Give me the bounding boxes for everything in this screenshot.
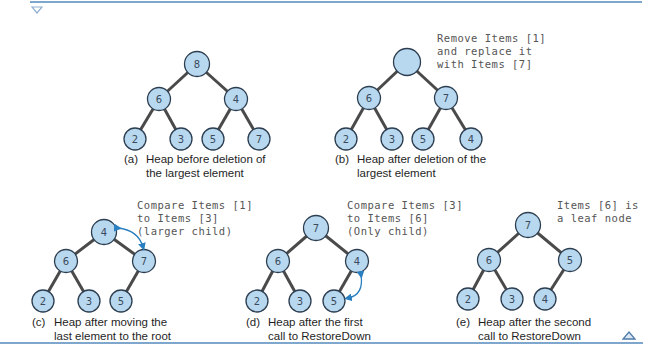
node-d-1: 6 — [275, 256, 281, 267]
node-e-0: 7 — [525, 220, 531, 231]
node-e-1: 6 — [486, 255, 492, 266]
note-e: Items [6] isa leaf node — [557, 199, 639, 225]
node-c-2: 7 — [141, 256, 147, 267]
swap-arrow-d — [348, 275, 361, 298]
caption-b: (b)Heap after deletion of the largest el… — [335, 152, 486, 180]
heap-e-nodes — [457, 213, 582, 311]
node-c-4: 3 — [86, 296, 92, 307]
node-a-6: 7 — [256, 134, 262, 145]
node-a-1: 6 — [156, 94, 162, 105]
node-d-2: 4 — [354, 256, 360, 267]
node-c-0: 4 — [101, 227, 107, 238]
node-c-3: 2 — [40, 296, 46, 307]
node-a-0: 8 — [194, 59, 200, 70]
node-d-0: 7 — [313, 223, 319, 234]
caption-c: (c)Heap after moving the last element to… — [32, 315, 171, 343]
node-b-4: 3 — [389, 134, 395, 145]
node-b-3: 2 — [343, 134, 349, 145]
node-e-2: 5 — [567, 255, 573, 266]
node-d-4: 3 — [297, 296, 303, 307]
caption-e: (e)Heap after the second call to Restore… — [456, 315, 591, 343]
node-c-5: 5 — [118, 296, 124, 307]
node-d-5: 5 — [331, 296, 337, 307]
node-a-2: 4 — [233, 94, 239, 105]
node-e-5: 4 — [542, 294, 548, 305]
node-b-2: 7 — [443, 93, 449, 104]
caption-a: (a)Heap before deletion of the largest e… — [124, 152, 266, 180]
node-c-1: 6 — [63, 256, 69, 267]
node-b-6: 4 — [468, 134, 474, 145]
note-d: Compare Items [3]to Items [6](Only child… — [347, 199, 463, 238]
node-b-1: 6 — [366, 93, 372, 104]
node-d-3: 2 — [254, 296, 260, 307]
node-b-5: 5 — [420, 134, 426, 145]
node-a-5: 5 — [210, 134, 216, 145]
node-e-4: 3 — [509, 294, 515, 305]
node-a-3: 2 — [132, 134, 138, 145]
note-c: Compare Items [1]to Items [3](larger chi… — [137, 199, 253, 238]
heap-diagrams: 8 6 4 2 3 5 7 6 7 2 3 5 4 4 6 7 2 3 5 7 … — [0, 0, 669, 360]
note-b: Remove Items [1]and replace itwith Items… — [437, 32, 546, 71]
node-a-4: 3 — [178, 134, 184, 145]
caption-d: (d)Heap after the first call to RestoreD… — [246, 315, 371, 343]
node-e-3: 2 — [465, 294, 471, 305]
